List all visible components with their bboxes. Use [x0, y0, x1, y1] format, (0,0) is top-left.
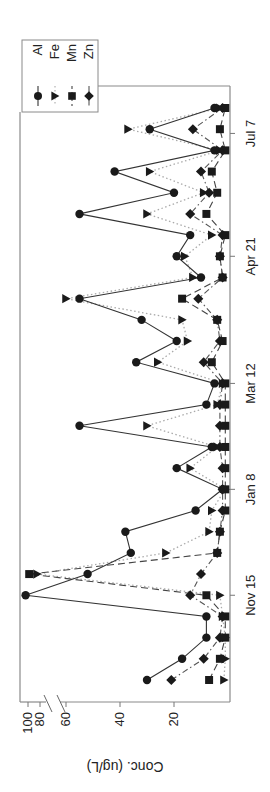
legend-label-mn: Mn — [64, 44, 79, 62]
x-tick-label: Mar 12 — [243, 363, 258, 403]
concentration-chart: 20406080100 Nov 15Jan 8Mar 12Apr 21Jul 7… — [0, 0, 270, 792]
legend-marker-square-icon — [68, 92, 76, 100]
y-tick-label: 100 — [20, 712, 35, 734]
axis-break-icon — [44, 695, 65, 712]
legend: AlFeMnZn — [22, 40, 98, 112]
y-axis-title: Conc. (ug/L) — [86, 759, 163, 775]
x-tick-label: Nov 15 — [243, 575, 258, 616]
x-tick-label: Apr 21 — [243, 237, 258, 275]
legend-label-zn: Zn — [81, 44, 96, 59]
x-tick-label: Jan 8 — [243, 473, 258, 505]
y-tick-label: 40 — [112, 712, 127, 726]
legend-label-al: Al — [30, 44, 45, 56]
legend-label-fe: Fe — [47, 44, 62, 59]
y-axis-ticks: 20406080100 — [20, 702, 181, 734]
y-tick-label: 60 — [58, 712, 73, 726]
series-markers-fe — [33, 103, 230, 684]
plot-frame — [20, 86, 230, 702]
x-tick-label: Jul 7 — [243, 120, 258, 147]
series-markers-al — [21, 104, 226, 684]
x-axis-ticks: Nov 15Jan 8Mar 12Apr 21Jul 7 — [230, 120, 258, 616]
series-layer — [21, 103, 230, 685]
series-line-mn — [29, 108, 225, 680]
series-markers-mn — [25, 104, 229, 684]
y-tick-label: 20 — [166, 712, 181, 726]
legend-marker-circle-icon — [34, 92, 42, 100]
